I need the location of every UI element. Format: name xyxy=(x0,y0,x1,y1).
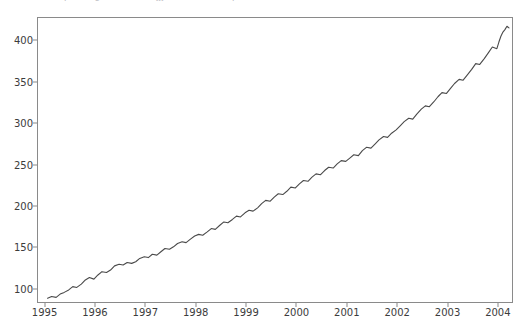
plot-area xyxy=(37,17,513,303)
x-tick-label: 1995 xyxy=(32,307,57,318)
x-tick-label: 2003 xyxy=(435,307,460,318)
x-tick-label: 1997 xyxy=(133,307,158,318)
x-tick-label: 1999 xyxy=(233,307,258,318)
y-tick-label: 400 xyxy=(14,35,33,46)
x-tick-label: 2002 xyxy=(384,307,409,318)
x-tick-label: 2000 xyxy=(284,307,309,318)
x-tick-mark xyxy=(497,303,498,307)
y-tick-label: 200 xyxy=(14,201,33,212)
x-tick-mark xyxy=(145,303,146,307)
x-tick-mark xyxy=(246,303,247,307)
x-tick-mark xyxy=(447,303,448,307)
x-tick-mark xyxy=(44,303,45,307)
series-line xyxy=(48,26,509,298)
x-tick-mark xyxy=(94,303,95,307)
y-tick-label: 350 xyxy=(14,76,33,87)
figure-root: plotting the series (jjj) rendered outpu… xyxy=(0,0,531,334)
y-tick-label: 100 xyxy=(14,283,33,294)
y-axis: 100150200250300350400 xyxy=(0,0,33,334)
y-tick-label: 300 xyxy=(14,118,33,129)
x-tick-mark xyxy=(397,303,398,307)
y-tick-label: 250 xyxy=(14,159,33,170)
y-tick-label: 150 xyxy=(14,242,33,253)
series-line-chart xyxy=(38,18,514,304)
x-tick-label: 2001 xyxy=(334,307,359,318)
x-tick-label: 1996 xyxy=(82,307,107,318)
top-caption-text: plotting the series (jjj) rendered outpu… xyxy=(64,0,248,1)
top-caption-strip: plotting the series (jjj) rendered outpu… xyxy=(0,0,531,9)
x-tick-mark xyxy=(195,303,196,307)
x-tick-label: 1998 xyxy=(183,307,208,318)
x-tick-mark xyxy=(296,303,297,307)
x-tick-mark xyxy=(346,303,347,307)
x-tick-label: 2004 xyxy=(485,307,510,318)
